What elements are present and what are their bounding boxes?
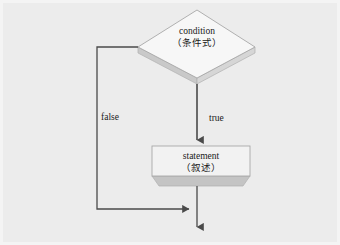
condition-face — [138, 10, 255, 78]
flowchart-svg — [0, 0, 340, 245]
statement-face — [152, 146, 250, 176]
statement-shadow — [152, 176, 250, 186]
flowchart-canvas: condition （条件式） statement （叙述） false tru… — [0, 0, 340, 245]
statement-node[interactable] — [152, 146, 250, 186]
condition-node[interactable] — [138, 10, 255, 84]
